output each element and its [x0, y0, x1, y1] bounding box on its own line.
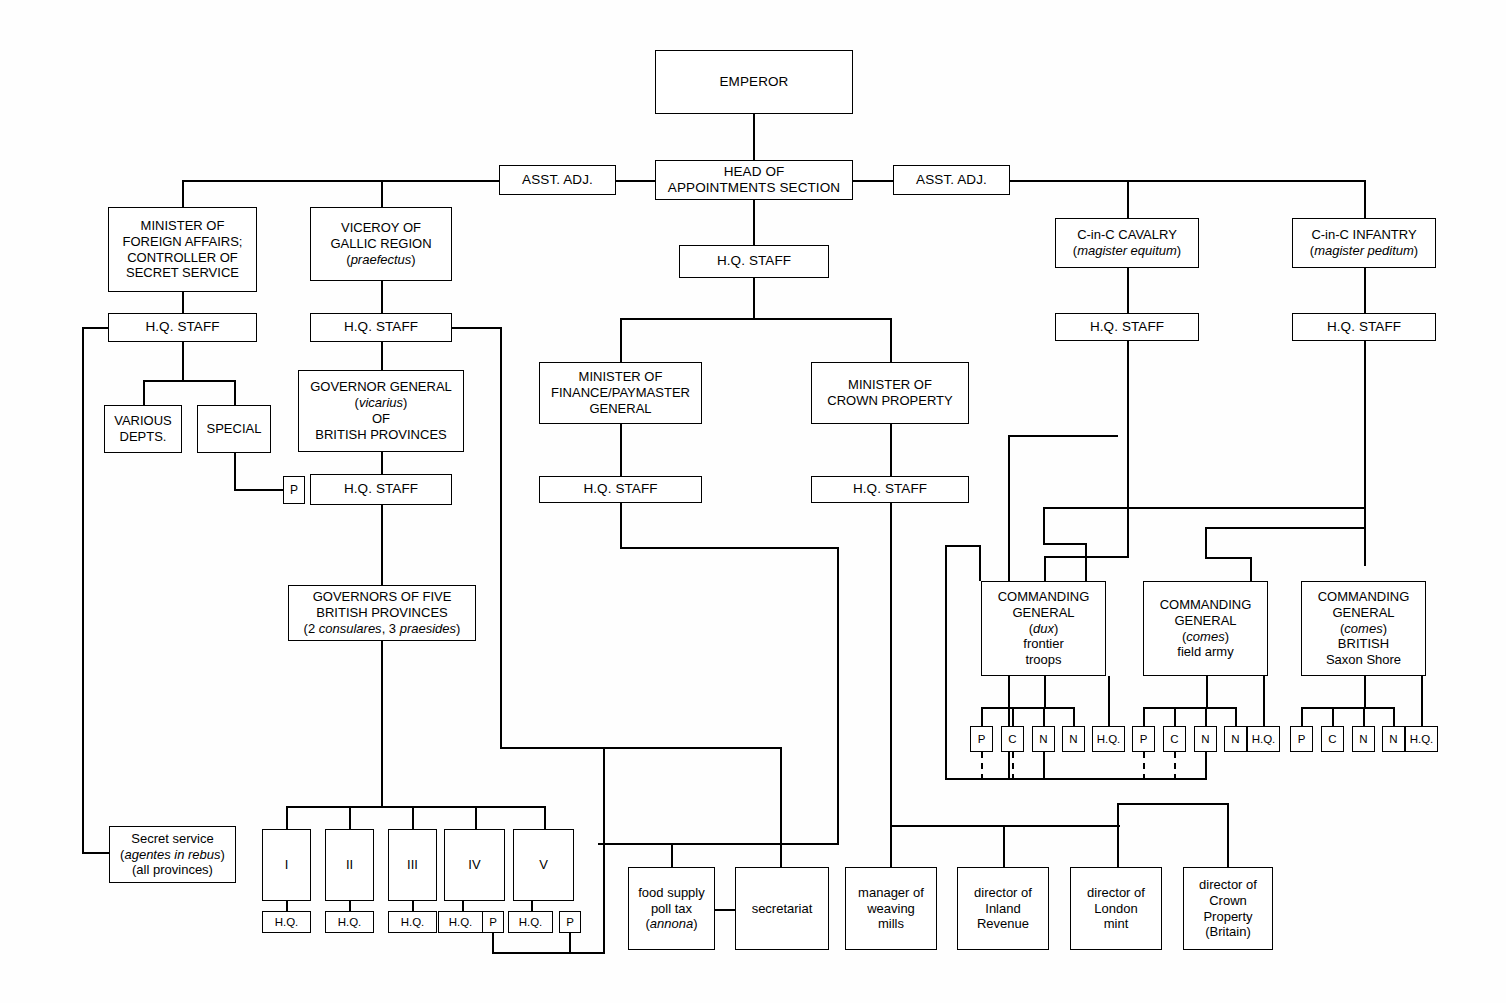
node-staff-a-n2[interactable]: N — [1062, 726, 1085, 752]
node-hq-province-3[interactable]: H.Q. — [388, 911, 437, 933]
node-weaving-mills[interactable]: manager ofweavingmills — [845, 867, 937, 950]
node-inland-revenue[interactable]: director ofInlandRevenue — [957, 867, 1049, 950]
drop-cinc-cavalry — [1127, 180, 1129, 218]
drop-staff-a-n1 — [1043, 707, 1045, 726]
node-various-depts[interactable]: VARIOUSDEPTS. — [104, 405, 182, 453]
node-hq-finance[interactable]: H.Q. STAFF — [539, 476, 702, 503]
drop-province-3 — [412, 806, 414, 829]
node-staff-b-p[interactable]: P — [1132, 726, 1155, 752]
node-hq-foreign-affairs[interactable]: H.Q. STAFF — [108, 313, 257, 342]
connector-cg-saxon-down — [1364, 676, 1366, 709]
drop-staff-b-n1 — [1205, 707, 1207, 726]
node-cg-field-army[interactable]: COMMANDINGGENERAL(comes)field army — [1143, 581, 1268, 676]
node-emperor[interactable]: EMPEROR — [655, 50, 853, 114]
node-viceroy-label: VICEROY OFGALLIC REGION(praefectus) — [311, 220, 451, 268]
node-food-supply-label: food supplypoll tax(annona) — [629, 885, 714, 933]
node-hq-province-2[interactable]: H.Q. — [325, 911, 374, 933]
node-staff-c-n1-label: N — [1353, 732, 1374, 746]
node-crown-property-britain[interactable]: director ofCrownProperty(Britain) — [1183, 867, 1273, 950]
node-hq-viceroy[interactable]: H.Q. STAFF — [310, 313, 452, 342]
drop-cinc-infantry — [1364, 180, 1366, 218]
drop-province-1 — [286, 806, 288, 829]
node-staff-c-n1[interactable]: N — [1352, 726, 1375, 752]
node-minister-foreign-label: MINISTER OFFOREIGN AFFAIRS;CONTROLLER OF… — [109, 218, 256, 281]
node-staff-c-p-label: P — [1291, 732, 1312, 746]
node-staff-a-n1[interactable]: N — [1032, 726, 1055, 752]
node-hq-governor-general[interactable]: H.Q. STAFF — [310, 474, 452, 505]
node-asst-adj-left[interactable]: ASST. ADJ. — [499, 165, 616, 195]
node-staff-b-n2[interactable]: N — [1224, 726, 1247, 752]
node-cinc-infantry[interactable]: C-in-C INFANTRY(magister peditum) — [1292, 218, 1436, 268]
node-p-province-5[interactable]: P — [559, 911, 581, 933]
connector-special-right — [234, 489, 284, 491]
drop-viceroy — [381, 180, 383, 208]
connector-crown-step — [1117, 803, 1119, 827]
node-hq-crown-property[interactable]: H.Q. STAFF — [811, 476, 969, 503]
node-province-1[interactable]: I — [262, 829, 311, 901]
node-province-5[interactable]: V — [513, 829, 574, 901]
node-province-4[interactable]: IV — [444, 829, 505, 901]
bus-foreign-depts — [143, 380, 236, 382]
node-hq-cavalry[interactable]: H.Q. STAFF — [1055, 313, 1199, 341]
node-secretariat[interactable]: secretariat — [735, 867, 829, 950]
node-secret-service[interactable]: Secret service(agentes in rebus)(all pro… — [109, 826, 236, 883]
node-cg-saxon-shore[interactable]: COMMANDINGGENERAL(comes)BRITISHSaxon Sho… — [1301, 581, 1426, 676]
node-p-governor-general[interactable]: P — [283, 476, 305, 504]
node-cinc-cavalry[interactable]: C-in-C CAVALRY(magister equitum) — [1055, 218, 1199, 268]
node-minister-crown-label: MINISTER OFCROWN PROPERTY — [812, 377, 968, 409]
connector-crown-hq — [890, 424, 892, 476]
connector-finance-to-foodsupply — [671, 843, 673, 867]
node-staff-b-hq[interactable]: H.Q. — [1247, 726, 1280, 752]
node-asst-adj-right[interactable]: ASST. ADJ. — [893, 165, 1010, 195]
node-minister-crown-property[interactable]: MINISTER OFCROWN PROPERTY — [811, 362, 969, 424]
connector-foodsupply-secretariat — [714, 909, 736, 911]
node-hq-province-5[interactable]: H.Q. — [508, 911, 553, 933]
node-cg-frontier-troops[interactable]: COMMANDINGGENERAL(dux)frontiertroops — [981, 581, 1106, 676]
node-staff-a-c[interactable]: C — [1001, 726, 1024, 752]
connector-pboxes-bus — [492, 952, 605, 954]
node-province-2[interactable]: II — [325, 829, 374, 901]
node-hq-province-4-label: H.Q. — [439, 915, 482, 929]
node-province-3[interactable]: III — [388, 829, 437, 901]
node-staff-c-p[interactable]: P — [1290, 726, 1313, 752]
node-hq-infantry-label: H.Q. STAFF — [1293, 319, 1435, 335]
node-food-supply[interactable]: food supplypoll tax(annona) — [628, 867, 715, 950]
node-staff-b-c-label: C — [1164, 732, 1185, 746]
connector-emperor-head — [753, 113, 755, 161]
drop-staff-a-c — [1012, 707, 1014, 726]
node-special[interactable]: SPECIAL — [197, 405, 271, 453]
drop-inland — [1003, 825, 1005, 867]
node-hq-head-appointments[interactable]: H.Q. STAFF — [679, 245, 829, 278]
node-staff-a-hq-label: H.Q. — [1093, 732, 1124, 746]
connector-viceroy-hq — [381, 281, 383, 314]
node-staff-b-n1[interactable]: N — [1194, 726, 1217, 752]
node-london-mint[interactable]: director ofLondonmint — [1070, 867, 1162, 950]
node-staff-b-c[interactable]: C — [1163, 726, 1186, 752]
node-hq-province-1-label: H.Q. — [263, 915, 310, 929]
connector-hqcavalry-down — [1127, 341, 1129, 556]
node-hq-province-1[interactable]: H.Q. — [262, 911, 311, 933]
node-governor-general[interactable]: GOVERNOR GENERAL(vicarius)OFBRITISH PROV… — [298, 370, 464, 452]
node-minister-finance[interactable]: MINISTER OFFINANCE/PAYMASTERGENERAL — [539, 362, 702, 424]
node-hq-infantry[interactable]: H.Q. STAFF — [1292, 313, 1436, 341]
bus-ministers — [620, 318, 892, 320]
node-head-appointments[interactable]: HEAD OFAPPOINTMENTS SECTION — [655, 160, 853, 200]
node-hq-viceroy-label: H.Q. STAFF — [311, 319, 451, 335]
bus-left — [182, 180, 502, 182]
node-staff-c-n2[interactable]: N — [1382, 726, 1405, 752]
node-staff-a-hq[interactable]: H.Q. — [1092, 726, 1125, 752]
rail-infantry-2-drop — [1250, 557, 1252, 581]
node-staff-c-hq[interactable]: H.Q. — [1405, 726, 1438, 752]
node-staff-c-c-label: C — [1322, 732, 1343, 746]
node-province-2-label: II — [326, 857, 373, 873]
drop-staff-c-hq — [1421, 676, 1423, 726]
connector-p5box-down — [569, 933, 571, 954]
node-governors-five-provinces[interactable]: GOVERNORS OF FIVEBRITISH PROVINCES(2 con… — [288, 585, 476, 641]
node-staff-c-c[interactable]: C — [1321, 726, 1344, 752]
connector-crown-extend-right — [1117, 803, 1229, 805]
node-hq-province-4[interactable]: H.Q. — [438, 911, 483, 933]
node-p-province-4[interactable]: P — [482, 911, 504, 933]
node-viceroy-gallic-region[interactable]: VICEROY OFGALLIC REGION(praefectus) — [310, 207, 452, 281]
node-minister-foreign-affairs[interactable]: MINISTER OFFOREIGN AFFAIRS;CONTROLLER OF… — [108, 207, 257, 292]
node-staff-a-p[interactable]: P — [970, 726, 993, 752]
